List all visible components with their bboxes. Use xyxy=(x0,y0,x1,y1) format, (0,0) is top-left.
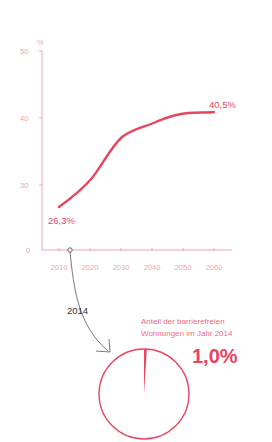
pie-title-line2: Wohnungen im Jahr 2014 xyxy=(141,329,233,338)
x-tick-label-2020: 2020 xyxy=(82,263,99,272)
x-tick-label-2030: 2030 xyxy=(113,263,130,272)
year-marker xyxy=(68,248,72,252)
y-tick-label-0: 0 xyxy=(26,246,30,255)
marker-year-label: 2014 xyxy=(67,305,88,316)
end-value-label: 40,5% xyxy=(209,99,236,110)
y-unit-label: % xyxy=(37,38,44,47)
x-tick-label-2050: 2050 xyxy=(175,263,192,272)
x-tick-label-2060: 2060 xyxy=(206,263,223,272)
pie-value-label: 1,0% xyxy=(192,345,238,367)
data-line xyxy=(59,112,214,207)
start-value-label: 26,3% xyxy=(48,215,75,226)
chart-canvas: % 50 40 30 0 2010 2020 2030 2040 2050 20… xyxy=(0,0,272,442)
y-tick-label-50: 50 xyxy=(20,47,28,56)
x-tick-label-2040: 2040 xyxy=(144,263,161,272)
y-tick-label-40: 40 xyxy=(20,114,28,123)
pie-title-line1: Anteil der barrierefreien xyxy=(141,317,225,326)
y-tick-label-30: 30 xyxy=(20,181,28,190)
x-tick-label-2010: 2010 xyxy=(51,263,68,272)
